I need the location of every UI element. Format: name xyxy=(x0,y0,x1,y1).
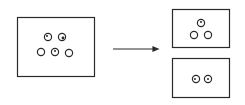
cell xyxy=(204,31,211,38)
cell xyxy=(44,33,51,40)
cell xyxy=(58,33,65,40)
result-box-three xyxy=(173,10,230,48)
diagram-canvas xyxy=(0,0,245,105)
source-cells xyxy=(37,33,72,56)
cell xyxy=(190,31,197,38)
source-box xyxy=(18,18,95,77)
cell xyxy=(37,48,44,55)
cell xyxy=(65,49,72,56)
result-box-two xyxy=(173,59,230,98)
arrow-right-icon xyxy=(113,47,158,51)
